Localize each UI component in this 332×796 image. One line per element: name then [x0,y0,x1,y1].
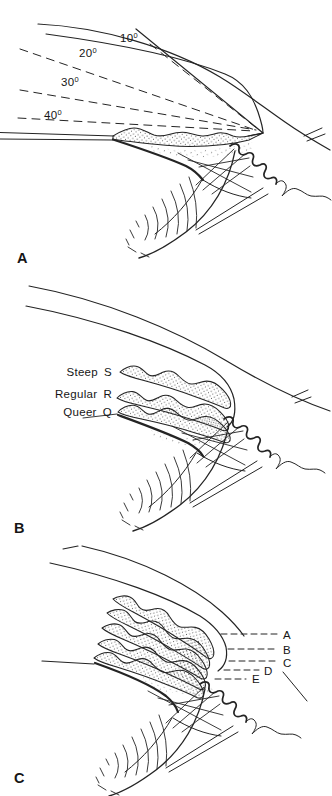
iris-label-queer: QueerQ [63,406,112,418]
diagonal-reference-line [283,672,307,701]
angle-label-20: 200 [79,46,97,59]
insertion-label-d: D [264,665,273,677]
insertion-label-b: B [283,644,291,656]
panel-label-b: B [14,520,24,536]
iris-label-regular: RegularR [55,388,112,400]
cornea-outer-line-a [38,24,330,150]
iris-plane-line-c [42,661,94,664]
iris-leaf-a [113,128,263,147]
panel-c: A B C D E C [14,546,307,796]
angle-line-10-deg [150,44,259,130]
iris-plane-lower-line [0,139,113,140]
angle-recess-c [96,682,301,796]
angle-label-30: 300 [61,75,79,88]
insertion-label-c: C [283,657,292,669]
panel-label-a: A [17,250,28,266]
panel-a: 100 200 300 400 A [0,24,331,266]
iris-label-steep: SteepS [66,366,112,378]
limbus-mark-a [304,128,322,136]
insertion-label-e: E [252,673,260,685]
angle-recess-a [126,144,331,258]
angle-label-40: 400 [44,108,62,121]
gonioscopy-grading-figure: 100 200 300 400 A SteepS RegularR QueerQ… [0,0,332,796]
panel-b: SteepS RegularR QueerQ B [14,286,330,536]
limbus-mark-b [292,390,308,397]
angle-label-10: 100 [120,31,138,44]
panel-label-c: C [14,770,25,786]
insertion-label-a: A [283,629,291,641]
cornea-outer-leading-dash-c [63,546,78,549]
iris-plane-upper-line [0,133,114,137]
figure-canvas: 100 200 300 400 A SteepS RegularR QueerQ… [0,0,332,796]
